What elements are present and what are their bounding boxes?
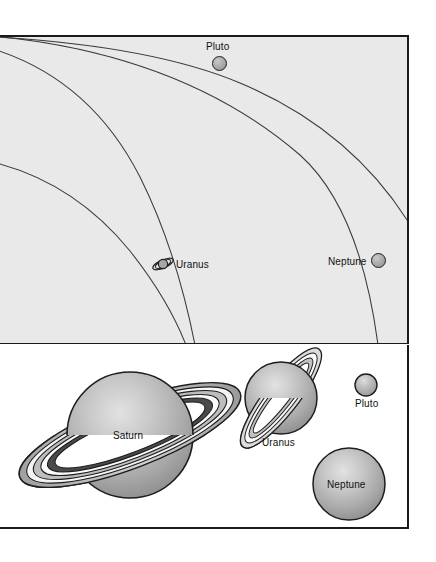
orbit-arcs [0, 37, 409, 343]
orbit-arc-saturn [0, 155, 186, 343]
orbit-marker-pluto [212, 56, 227, 71]
orbit-label-neptune: Neptune [328, 257, 367, 267]
orbit-arc-pluto [0, 37, 409, 223]
orbit-arc-neptune [0, 37, 378, 343]
pluto-globe [355, 374, 377, 396]
orbit-label-pluto: Pluto [206, 42, 229, 52]
orbit-marker-uranus [151, 256, 175, 272]
planet-body-icon [158, 259, 167, 268]
orbit-arc-uranus [0, 39, 195, 343]
orbit-marker-neptune [371, 253, 386, 268]
size-label-neptune: Neptune [327, 480, 366, 490]
panel-divider [0, 343, 409, 344]
planets-figure: Pluto Uranus Neptune COMPARISON OF THE S… [0, 0, 436, 562]
size-label-pluto: Pluto [355, 399, 378, 409]
planet-size-drawings [0, 345, 409, 529]
orbit-label-uranus: Uranus [176, 260, 209, 270]
orbit-map-panel: Pluto Uranus Neptune [0, 35, 409, 343]
size-comparison-panel: Saturn Uranus Pluto Neptune [0, 345, 409, 529]
size-label-uranus: Uranus [262, 438, 295, 448]
size-label-saturn: Saturn [113, 431, 143, 441]
